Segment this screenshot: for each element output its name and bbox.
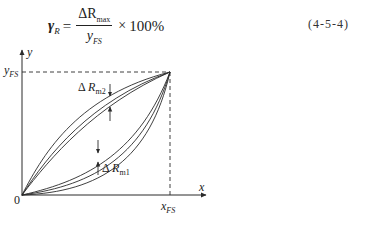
x-fs-subscript: FS bbox=[166, 206, 175, 215]
m1-subscript: m1 bbox=[119, 168, 129, 177]
y-axis-label: y bbox=[27, 45, 32, 60]
x-fs-label: xFS bbox=[161, 199, 175, 215]
delta-symbol: Δ bbox=[102, 161, 109, 175]
y-fs-subscript: FS bbox=[9, 70, 18, 79]
origin-label: 0 bbox=[14, 193, 20, 208]
x-axis-label: x bbox=[199, 180, 204, 195]
delta-symbol: Δ bbox=[78, 80, 85, 94]
delta-rm1-label: Δ Rm1 bbox=[102, 161, 130, 177]
m2-subscript: m2 bbox=[95, 87, 105, 96]
y-fs-label: yFS bbox=[4, 63, 18, 79]
delta-rm2-label: Δ Rm2 bbox=[78, 80, 106, 96]
repeatability-diagram bbox=[0, 0, 366, 227]
